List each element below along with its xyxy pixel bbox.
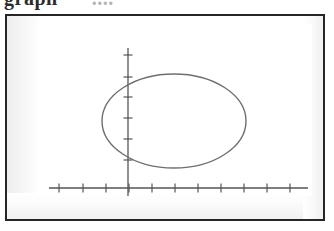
paper-shading-bottom bbox=[7, 193, 323, 219]
y-axis bbox=[124, 48, 133, 196]
plot-panel bbox=[37, 24, 312, 196]
caption-word: graph bbox=[4, 0, 58, 9]
ellipse-plot bbox=[37, 24, 312, 196]
ellipse-curve bbox=[102, 74, 246, 168]
ellipse-path bbox=[102, 74, 246, 168]
clipped-caption-text: graph.... bbox=[4, 0, 114, 10]
paper-shading-left bbox=[7, 16, 41, 219]
caption-trailing: .... bbox=[92, 0, 114, 9]
x-axis bbox=[49, 184, 308, 193]
clipped-caption-strip: graph.... bbox=[0, 0, 334, 11]
figure-frame bbox=[5, 14, 325, 221]
